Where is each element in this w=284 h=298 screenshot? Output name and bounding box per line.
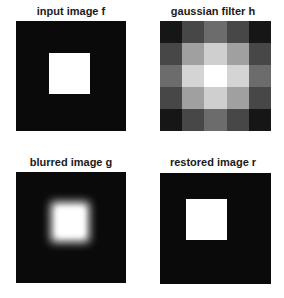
filter-cell	[249, 43, 271, 65]
panel-gaussian-filter: gaussian filter h	[142, 0, 284, 149]
filter-cell	[182, 65, 204, 87]
filter-cell	[249, 21, 271, 43]
filter-cell	[160, 87, 182, 109]
panel-input-image: input image f	[0, 0, 142, 149]
filter-cell	[249, 109, 271, 131]
restored-image-axes	[160, 173, 271, 284]
filter-cell	[160, 65, 182, 87]
filter-cell	[227, 65, 249, 87]
filter-cell	[227, 87, 249, 109]
filter-cell	[182, 43, 204, 65]
filter-cell	[204, 21, 226, 43]
filter-cell	[204, 87, 226, 109]
white-square	[186, 199, 227, 240]
gaussian-filter-grid	[160, 21, 271, 131]
panel-blurred-image: blurred image g	[0, 149, 142, 298]
filter-cell	[204, 43, 226, 65]
white-square	[49, 53, 90, 94]
panel-title: restored image r	[143, 156, 283, 168]
filter-cell	[249, 87, 271, 109]
blurred-square-core	[57, 208, 84, 236]
filter-cell	[204, 65, 226, 87]
panel-title: blurred image g	[1, 156, 141, 168]
panel-title: gaussian filter h	[143, 5, 283, 17]
filter-cell	[182, 21, 204, 43]
filter-cell	[227, 109, 249, 131]
filter-cell	[204, 109, 226, 131]
blurred-image-axes	[16, 172, 126, 283]
filter-cell	[227, 43, 249, 65]
panel-title: input image f	[1, 5, 141, 17]
input-image-axes	[16, 21, 126, 131]
filter-cell	[182, 87, 204, 109]
filter-cell	[160, 109, 182, 131]
filter-cell	[182, 109, 204, 131]
filter-cell	[160, 21, 182, 43]
filter-cell	[227, 21, 249, 43]
filter-cell	[160, 43, 182, 65]
filter-cell	[249, 65, 271, 87]
panel-restored-image: restored image r	[142, 149, 284, 298]
